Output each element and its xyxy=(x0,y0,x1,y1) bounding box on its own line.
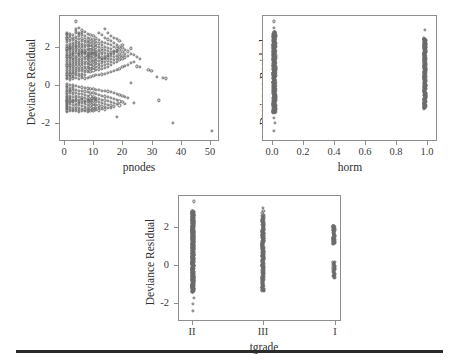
data-point xyxy=(138,65,141,68)
horm-x-tick-10: 1.0 xyxy=(420,147,433,158)
horm-x-axis-label: horm xyxy=(338,162,362,174)
pnodes-y-tick-2: 2 xyxy=(36,42,50,53)
horm-x-tickmark-10 xyxy=(427,141,428,145)
data-point xyxy=(423,28,426,31)
horm-x-tick-08: 0.8 xyxy=(389,147,402,158)
data-point xyxy=(192,296,195,299)
data-point xyxy=(127,96,130,99)
data-point xyxy=(191,309,194,312)
pnodes-x-tickmark-40 xyxy=(181,141,182,145)
data-point xyxy=(118,104,121,107)
horm-x-tickmark-08 xyxy=(396,141,397,145)
tgrade-plot-frame xyxy=(178,195,341,321)
horm-x-tick-04: 0.4 xyxy=(327,147,340,158)
horm-x-tickmark-06 xyxy=(365,141,366,145)
data-point xyxy=(129,81,132,84)
horm-x-tickmark-04 xyxy=(334,141,335,145)
tgrade-x-tick-III: III xyxy=(258,327,269,338)
tgrade-x-tickmark-III xyxy=(263,321,264,325)
data-point xyxy=(118,40,121,43)
pnodes-y-tick-m2: -2 xyxy=(33,118,50,129)
tgrade-x-tickmark-II xyxy=(192,321,193,325)
data-point xyxy=(273,116,276,119)
data-point xyxy=(273,26,276,29)
data-point xyxy=(273,122,276,125)
data-point xyxy=(192,200,195,203)
data-point xyxy=(132,61,135,64)
data-point xyxy=(164,77,167,80)
tgrade-x-tick-II: II xyxy=(189,327,196,338)
data-point xyxy=(156,75,159,78)
data-point xyxy=(157,99,160,102)
horm-x-tickmark-02 xyxy=(303,141,304,145)
data-point xyxy=(103,27,106,30)
pnodes-x-tick-20: 20 xyxy=(117,147,128,158)
horm-x-tick-06: 0.6 xyxy=(358,147,371,158)
data-point xyxy=(115,115,118,118)
horm-x-tick-00: 0.0 xyxy=(265,147,278,158)
data-point xyxy=(138,57,141,60)
data-point xyxy=(171,121,174,124)
pnodes-scatter-points xyxy=(60,16,218,140)
horm-x-tickmark-00 xyxy=(272,141,273,145)
pnodes-y-tick-0: 0 xyxy=(36,80,50,91)
data-point xyxy=(74,20,77,23)
horm-plot-frame xyxy=(262,15,437,141)
pnodes-x-tick-0: 0 xyxy=(61,147,66,158)
data-point xyxy=(124,102,127,105)
pnodes-x-tickmark-0 xyxy=(64,141,65,145)
tgrade-panel: Deviance Residual 2 0 -2 II III I tgrade xyxy=(114,175,354,355)
tgrade-y-tick-0: 0 xyxy=(155,260,169,271)
pnodes-x-tick-40: 40 xyxy=(176,147,187,158)
pnodes-x-tickmark-30 xyxy=(152,141,153,145)
data-point xyxy=(132,102,135,105)
tgrade-y-tick-m2: -2 xyxy=(152,298,169,309)
pnodes-x-tickmark-50 xyxy=(210,141,211,145)
horm-scatter-points xyxy=(263,16,436,140)
pnodes-x-tick-50: 50 xyxy=(205,147,216,158)
pnodes-x-tickmark-20 xyxy=(122,141,123,145)
data-point xyxy=(129,47,132,50)
data-point xyxy=(333,260,336,263)
data-point xyxy=(211,129,214,132)
pnodes-x-axis-label: pnodes xyxy=(123,162,156,174)
horm-x-tick-02: 0.2 xyxy=(296,147,309,158)
pnodes-x-tick-10: 10 xyxy=(88,147,99,158)
data-point xyxy=(272,129,275,132)
tgrade-scatter-points xyxy=(179,196,340,320)
tgrade-x-tick-I: I xyxy=(333,327,337,338)
data-point xyxy=(272,20,275,23)
footer-divider-rule xyxy=(16,350,443,353)
tgrade-x-tickmark-I xyxy=(335,321,336,325)
pnodes-x-tickmark-10 xyxy=(93,141,94,145)
data-point xyxy=(150,70,153,73)
pnodes-plot-frame xyxy=(59,15,219,141)
pnodes-panel: Deviance Residual 2 0 -2 0 10 20 30 40 5… xyxy=(0,0,230,175)
data-point xyxy=(191,302,194,305)
horm-panel: Deviance Residual 2 0 -2 0.0 0.2 0.4 0.6… xyxy=(230,0,456,175)
pnodes-x-tick-30: 30 xyxy=(147,147,158,158)
tgrade-y-tick-2: 2 xyxy=(155,222,169,233)
